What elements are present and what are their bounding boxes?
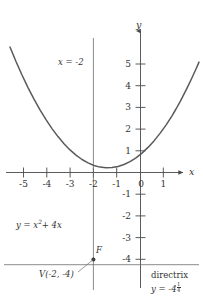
y-tick-label-neg3: -3 bbox=[112, 234, 131, 243]
vertex-leader-line bbox=[78, 259, 93, 272]
y-tick-label-1: 1 bbox=[117, 147, 131, 156]
equation-label: y = x2+ 4x bbox=[16, 219, 62, 230]
x-tick-label-neg3: -3 bbox=[60, 180, 80, 189]
directrix-fraction: 14 bbox=[177, 282, 181, 294]
x-axis-label: x bbox=[189, 167, 194, 177]
x-tick-label-neg5: -5 bbox=[14, 180, 34, 189]
vertex-label: V(-2, -4) bbox=[39, 269, 74, 280]
parabola-figure: x y -5 -4 -3 -2 -1 0 1 5 4 3 2 1 -1 -2 -… bbox=[0, 0, 203, 298]
equation-suffix: + 4x bbox=[42, 220, 62, 230]
y-tick-label-neg2: -2 bbox=[112, 212, 131, 221]
axis-of-symmetry-label: x = -2 bbox=[58, 57, 84, 68]
equation-prefix: y = x bbox=[16, 220, 38, 230]
y-tick-label-5: 5 bbox=[117, 60, 131, 69]
y-tick-label-neg4: -4 bbox=[112, 255, 131, 264]
fraction-denominator: 4 bbox=[177, 288, 181, 293]
directrix-eq-prefix: y = -4 bbox=[151, 284, 177, 294]
y-tick-label-2: 2 bbox=[117, 125, 131, 134]
x-tick-label-neg1: -1 bbox=[107, 180, 127, 189]
y-tick-label-neg1: -1 bbox=[112, 190, 131, 199]
directrix-word-label: directrix bbox=[151, 270, 188, 281]
x-tick-label-1: 1 bbox=[156, 180, 170, 189]
x-tick-label-neg4: -4 bbox=[37, 180, 57, 189]
directrix-equation-label: y = -414 bbox=[151, 282, 181, 294]
y-tick-label-4: 4 bbox=[117, 82, 131, 91]
x-tick-label-neg2: -2 bbox=[83, 180, 103, 189]
y-tick-label-3: 3 bbox=[117, 103, 131, 112]
focus-label: F bbox=[96, 246, 102, 255]
origin-label: 0 bbox=[134, 180, 148, 189]
y-axis-label: y bbox=[136, 20, 141, 30]
parabola-curve bbox=[10, 47, 199, 168]
